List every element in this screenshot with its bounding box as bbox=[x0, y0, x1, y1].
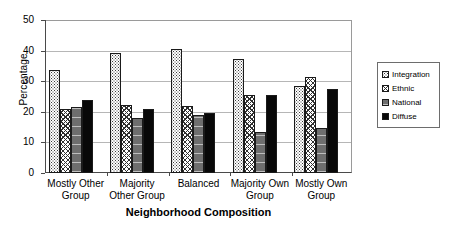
legend: IntegrationEthnicNationalDiffuse bbox=[377, 62, 440, 128]
bar bbox=[132, 118, 143, 173]
legend-swatch-icon bbox=[382, 99, 389, 106]
bar bbox=[121, 105, 132, 173]
bar-group bbox=[106, 20, 167, 173]
x-tick-label-line: Mostly Own bbox=[283, 178, 360, 190]
legend-label: National bbox=[392, 98, 421, 107]
bar bbox=[49, 70, 60, 173]
x-axis-title: Neighborhood Composition bbox=[45, 206, 352, 218]
y-tick-label: 50 bbox=[0, 15, 34, 25]
y-tick-label: 10 bbox=[0, 137, 34, 147]
bar-group bbox=[291, 20, 352, 173]
bar bbox=[71, 107, 82, 173]
bar bbox=[244, 95, 255, 173]
x-tick-label-line: Other Group bbox=[98, 190, 175, 202]
y-tick-label: 20 bbox=[0, 107, 34, 117]
bar bbox=[204, 113, 215, 173]
bar bbox=[316, 128, 327, 173]
legend-item: National bbox=[382, 95, 436, 109]
y-tick-mark bbox=[41, 173, 45, 174]
bar bbox=[171, 49, 182, 173]
bar bbox=[182, 106, 193, 173]
bar bbox=[294, 86, 305, 173]
y-tick-label: 0 bbox=[0, 168, 34, 178]
x-axis-tick-labels: Mostly OtherGroupMajorityOther GroupBala… bbox=[45, 178, 352, 208]
y-tick-label: 40 bbox=[0, 46, 34, 56]
y-tick-label: 30 bbox=[0, 76, 34, 86]
bar-group bbox=[168, 20, 229, 173]
legend-swatch-icon bbox=[382, 113, 389, 120]
bar bbox=[327, 89, 338, 173]
bar bbox=[255, 132, 266, 173]
x-tick-label-line: Group bbox=[283, 190, 360, 202]
legend-item: Integration bbox=[382, 67, 436, 81]
legend-swatch-icon bbox=[382, 71, 389, 78]
bars-layer bbox=[45, 20, 352, 173]
legend-swatch-icon bbox=[382, 85, 389, 92]
bar bbox=[82, 100, 93, 173]
bar bbox=[143, 109, 154, 173]
legend-label: Integration bbox=[392, 70, 430, 79]
bar-group bbox=[45, 20, 106, 173]
bar bbox=[60, 109, 71, 173]
bar bbox=[266, 95, 277, 173]
legend-item: Diffuse bbox=[382, 109, 436, 123]
x-tick-label: Mostly OwnGroup bbox=[283, 178, 360, 202]
legend-label: Diffuse bbox=[392, 112, 417, 121]
bar-group bbox=[229, 20, 290, 173]
bar bbox=[193, 115, 204, 173]
legend-label: Ethnic bbox=[392, 84, 414, 93]
bar-chart: Percentage 01020304050 Mostly OtherGroup… bbox=[0, 0, 449, 225]
bar bbox=[110, 53, 121, 173]
legend-item: Ethnic bbox=[382, 81, 436, 95]
bar bbox=[233, 59, 244, 173]
bar bbox=[305, 77, 316, 173]
